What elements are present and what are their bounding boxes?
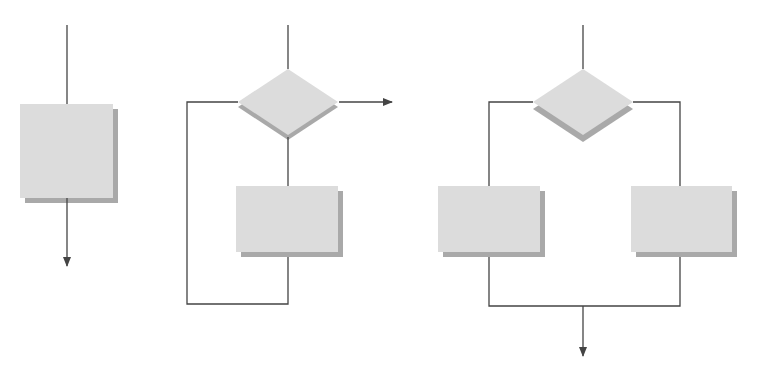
- selection-structure: [438, 25, 737, 356]
- selection-left-box: [438, 186, 540, 252]
- selection-decision-diamond: [533, 69, 633, 135]
- loop-structure: [187, 25, 392, 304]
- selection-left-branch-line: [489, 102, 533, 186]
- sequence-structure: [20, 25, 118, 266]
- selection-right-branch-line: [633, 102, 680, 186]
- loop-decision-diamond: [238, 69, 338, 135]
- loop-body-box: [236, 186, 338, 252]
- sequence-process-box: [20, 104, 113, 198]
- flowchart-control-structures-diagram: [0, 0, 761, 376]
- selection-merge-line: [489, 257, 680, 306]
- selection-right-box: [631, 186, 732, 252]
